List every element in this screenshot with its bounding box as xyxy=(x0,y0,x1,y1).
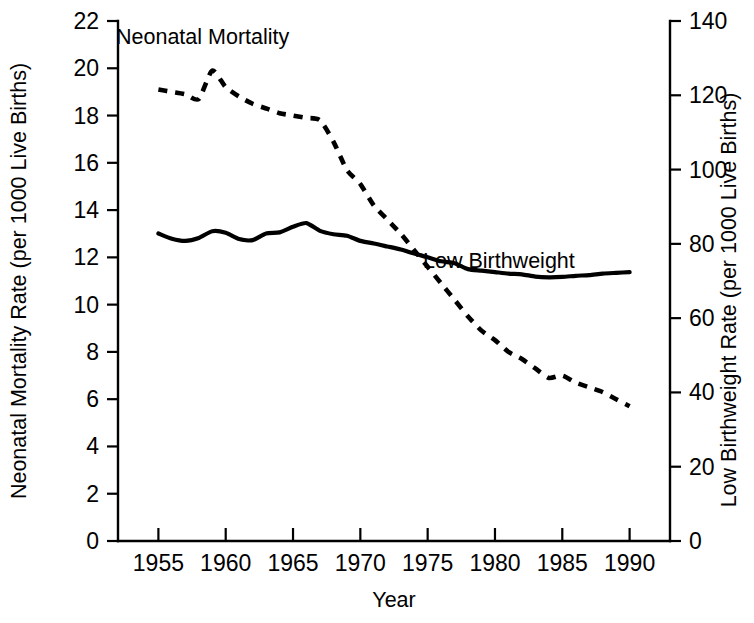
y-axis-title-left: Neonatal Mortality Rate (per 1000 Live B… xyxy=(7,63,31,499)
x-axis-tick-labels: 19551960196519701975198019851990 xyxy=(133,550,655,576)
y-axis-title-right: Low Birthweight Rate (per 1000 Live Birt… xyxy=(717,93,741,508)
left-tick-label: 2 xyxy=(86,481,99,507)
left-axis-tick-labels: 0246810121416182022 xyxy=(73,8,99,554)
right-tick-label: 60 xyxy=(689,305,715,331)
left-tick-label: 4 xyxy=(86,433,99,459)
right-tick-label: 0 xyxy=(689,528,702,554)
series-label-neonatal-mortality: Neonatal Mortality xyxy=(116,25,290,49)
x-tick-label: 1975 xyxy=(402,550,453,576)
series-label-low-birthweight: Low Birthweight xyxy=(423,249,575,273)
x-tick-label: 1965 xyxy=(267,550,318,576)
left-tick-label: 16 xyxy=(73,150,99,176)
x-tick-label: 1980 xyxy=(469,550,520,576)
right-tick-label: 80 xyxy=(689,231,715,257)
x-axis-title: Year xyxy=(372,588,415,612)
left-tick-label: 0 xyxy=(86,528,99,554)
x-tick-label: 1960 xyxy=(200,550,251,576)
x-tick-label: 1970 xyxy=(335,550,386,576)
left-tick-label: 20 xyxy=(73,55,99,81)
left-tick-label: 22 xyxy=(73,8,99,34)
right-tick-label: 20 xyxy=(689,454,715,480)
right-tick-label: 40 xyxy=(689,379,715,405)
left-tick-label: 14 xyxy=(73,197,99,223)
x-tick-label: 1990 xyxy=(604,550,655,576)
left-tick-label: 18 xyxy=(73,103,99,129)
left-tick-label: 6 xyxy=(86,386,99,412)
right-tick-label: 140 xyxy=(689,8,727,34)
left-tick-label: 8 xyxy=(86,339,99,365)
dual-axis-line-chart: 0246810121416182022 020406080100120140 1… xyxy=(0,0,754,623)
x-tick-label: 1985 xyxy=(537,550,588,576)
chart-figure: 0246810121416182022 020406080100120140 1… xyxy=(0,0,754,623)
left-axis-ticks xyxy=(107,21,118,541)
series-line-neonatal-mortality xyxy=(158,71,629,407)
left-tick-label: 10 xyxy=(73,292,99,318)
x-axis-ticks xyxy=(158,528,629,541)
right-axis-ticks xyxy=(670,21,681,541)
left-tick-label: 12 xyxy=(73,244,99,270)
x-tick-label: 1955 xyxy=(133,550,184,576)
